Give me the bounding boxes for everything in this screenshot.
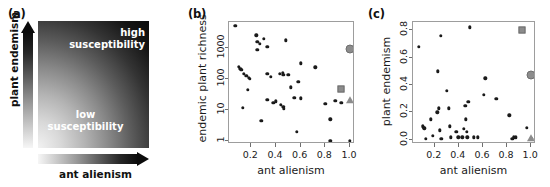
data-point <box>266 45 269 48</box>
x-axis-tick <box>434 143 435 147</box>
data-point <box>429 118 432 121</box>
y-axis-tick-label: 100 <box>211 72 230 83</box>
data-point <box>296 80 299 83</box>
x-axis-tick <box>506 143 507 147</box>
arrow-up-gradient-icon <box>21 21 35 148</box>
data-point <box>417 45 420 48</box>
data-point <box>233 24 236 27</box>
data-point <box>256 48 259 51</box>
data-point <box>455 130 458 133</box>
data-point <box>508 114 511 117</box>
data-point <box>431 134 434 137</box>
data-point <box>348 139 351 142</box>
x-axis-tick-label: 0.4 <box>267 149 282 160</box>
data-point <box>262 37 265 40</box>
panel-c-scatter: (c) plant endemism 0.20.40.60.81.00.00.2… <box>365 0 550 187</box>
data-point <box>436 70 439 73</box>
data-point <box>248 77 251 80</box>
x-axis-tick <box>250 143 251 147</box>
data-point <box>445 89 448 92</box>
panel-c-label: (c) <box>368 7 385 21</box>
highlight-triangle-marker <box>527 134 534 141</box>
data-point <box>266 98 269 101</box>
data-point <box>284 39 287 42</box>
data-point <box>449 135 452 138</box>
data-point <box>468 26 471 29</box>
panel-c-plot-area <box>413 22 534 142</box>
data-point <box>329 118 332 121</box>
data-point <box>269 75 272 78</box>
high-susceptibility-line1: high <box>120 27 145 38</box>
data-point <box>241 106 244 109</box>
data-point <box>466 135 469 138</box>
data-point <box>295 130 298 133</box>
data-point <box>287 73 290 76</box>
data-point <box>329 139 332 142</box>
data-point <box>274 100 277 103</box>
data-point <box>525 126 528 129</box>
low-susceptibility-line2: susceptibility <box>48 121 124 132</box>
y-axis-tick-label: 0.0 <box>395 133 414 144</box>
highlight-square-marker <box>518 27 525 34</box>
data-point <box>282 107 285 110</box>
data-point <box>259 119 262 122</box>
x-axis-tick <box>349 143 350 147</box>
data-point <box>258 42 261 45</box>
data-point <box>324 102 327 105</box>
x-axis-tick-label: 1.0 <box>341 149 356 160</box>
data-point <box>293 96 296 99</box>
data-point <box>495 97 498 100</box>
data-point <box>299 97 302 100</box>
vertical-arrow-head <box>21 21 35 33</box>
data-point <box>437 107 440 110</box>
highlight-square-marker <box>337 85 344 92</box>
data-point <box>447 107 450 110</box>
x-axis-tick-label: 0.8 <box>498 149 513 160</box>
data-point <box>299 62 302 65</box>
x-axis-tick-label: 0.6 <box>474 149 489 160</box>
panel-c-x-axis-title: ant alienism <box>412 164 535 177</box>
y-axis-tick-label: 0.4 <box>395 78 414 89</box>
x-axis-tick <box>530 143 531 147</box>
data-point <box>482 93 485 96</box>
data-point <box>464 118 467 121</box>
panel-a-x-axis-title: ant alienism <box>38 168 153 180</box>
x-axis-tick <box>324 143 325 147</box>
panel-b-y-axis-title: endemic plant richness <box>196 21 209 143</box>
data-point <box>439 34 442 37</box>
high-susceptibility-line2: susceptibility <box>69 39 145 50</box>
data-point <box>440 137 443 140</box>
panel-b-plot-area <box>229 22 353 142</box>
horizontal-arrow-shaft <box>38 154 138 164</box>
panel-b-plot-frame <box>228 21 354 143</box>
vertical-arrow-shaft <box>23 32 33 148</box>
highlight-triangle-marker <box>346 96 353 103</box>
data-point <box>448 124 451 127</box>
x-axis-tick-label: 0.2 <box>243 149 258 160</box>
y-axis-tick-label: 1 <box>217 134 223 145</box>
data-point <box>435 111 438 114</box>
data-point <box>461 135 464 138</box>
data-point <box>334 99 337 102</box>
figure-container: (a) high susceptibility low susceptibili… <box>0 0 550 187</box>
x-axis-tick <box>482 143 483 147</box>
y-axis-tick-label: 0.6 <box>395 51 414 62</box>
data-point <box>246 88 249 91</box>
x-axis-tick-label: 0.2 <box>426 149 441 160</box>
data-point <box>465 130 468 133</box>
panel-c-y-axis-title: plant endemism <box>380 21 393 143</box>
panel-a-y-axis-title: plant endemism <box>8 17 20 107</box>
data-point <box>484 76 487 79</box>
y-axis-tick-label: 0.2 <box>395 105 414 116</box>
y-axis-tick-label: 1000 <box>208 41 233 52</box>
data-point <box>464 104 467 107</box>
data-point <box>289 85 292 88</box>
data-point <box>514 135 517 138</box>
panel-a-conceptual-diagram: (a) high susceptibility low susceptibili… <box>0 0 185 187</box>
data-point <box>424 137 427 140</box>
x-axis-tick-label: 1.0 <box>523 149 538 160</box>
susceptibility-gradient-square: high susceptibility low susceptibility <box>38 21 149 148</box>
y-axis-tick-label: 0.8 <box>395 23 414 34</box>
y-axis-tick-label: 10 <box>214 103 226 114</box>
data-point <box>314 66 317 69</box>
